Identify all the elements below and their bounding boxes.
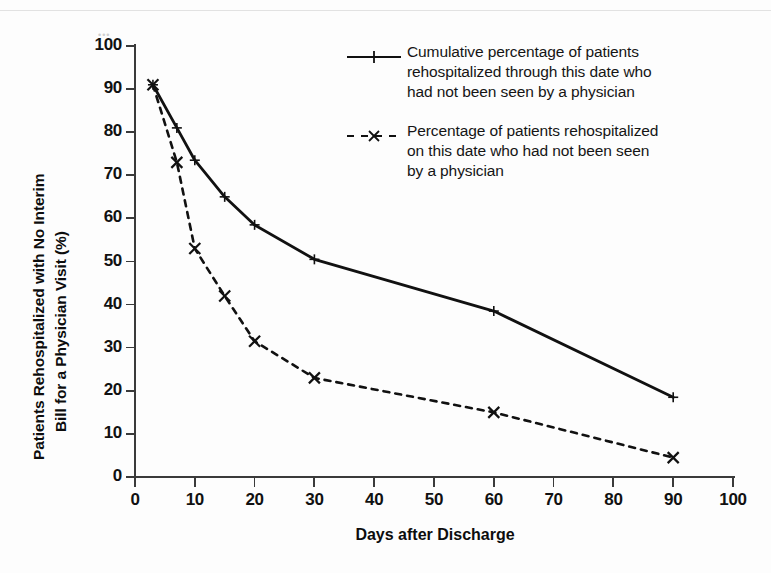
y-tick-mark: [126, 88, 135, 90]
y-tick-label: 30: [82, 337, 122, 357]
x-tick-mark: [254, 478, 256, 487]
x-tick-label: 40: [352, 490, 396, 510]
y-tick-mark: [126, 45, 135, 47]
legend-entry-cumulative: Cumulative percentage of patients rehosp…: [345, 42, 765, 101]
x-tick-label: 70: [532, 490, 576, 510]
x-tick-label: 60: [472, 490, 516, 510]
y-tick-label: 70: [82, 164, 122, 184]
x-tick-label: 80: [591, 490, 635, 510]
x-tick-label: 100: [711, 490, 755, 510]
x-tick-mark: [373, 478, 375, 487]
y-tick-label: 20: [82, 380, 122, 400]
legend-key-solid-plus-icon: [345, 42, 407, 65]
legend-label-cumulative-line-3: had not been seen by a physician: [407, 82, 652, 102]
y-tick-label: 100: [82, 35, 122, 55]
legend-label-cumulative: Cumulative percentage of patients rehosp…: [407, 42, 652, 101]
x-tick-label: 30: [292, 490, 336, 510]
y-tick-mark: [126, 433, 135, 435]
legend-label-on-date-line-1: Percentage of patients rehospitalized: [407, 121, 658, 141]
legend-label-on-date-line-2: on this date who had not been seen: [407, 141, 658, 161]
x-tick-label: 10: [173, 490, 217, 510]
y-tick-label: 60: [82, 207, 122, 227]
data-point-marker: [489, 306, 499, 316]
x-tick-label: 0: [113, 490, 157, 510]
x-axis-title: Days after Discharge: [135, 526, 735, 544]
x-tick-mark: [313, 478, 315, 487]
y-tick-label: 90: [82, 78, 122, 98]
y-tick-label: 40: [82, 294, 122, 314]
x-tick-mark: [134, 478, 136, 487]
x-tick-label: 90: [651, 490, 695, 510]
x-tick-mark: [194, 478, 196, 487]
legend-label-cumulative-line-1: Cumulative percentage of patients: [407, 42, 652, 62]
chart-figure: ••• Patients Rehospitalized with No Inte…: [0, 0, 771, 573]
x-tick-mark: [612, 478, 614, 487]
legend-label-on-date-line-3: by a physician: [407, 161, 658, 181]
y-tick-label: 10: [82, 423, 122, 443]
y-tick-mark: [126, 390, 135, 392]
y-tick-label: 50: [82, 251, 122, 271]
data-point-marker: [219, 290, 230, 301]
y-tick-mark: [126, 131, 135, 133]
legend-key-dashed-x-icon: [345, 121, 407, 144]
y-axis-tick-labels: 0102030405060708090100: [78, 0, 122, 520]
x-tick-mark: [732, 478, 734, 487]
x-tick-mark: [672, 478, 674, 487]
y-tick-mark: [126, 304, 135, 306]
x-tick-mark: [553, 478, 555, 487]
y-tick-label: 0: [82, 466, 122, 486]
x-tick-label: 20: [233, 490, 277, 510]
x-tick-mark: [433, 478, 435, 487]
legend-label-on-date: Percentage of patients rehospitalized on…: [407, 121, 658, 180]
legend-entry-on-date: Percentage of patients rehospitalized on…: [345, 121, 765, 180]
data-point-marker: [249, 336, 260, 347]
y-tick-mark: [126, 217, 135, 219]
y-tick-mark: [126, 347, 135, 349]
y-tick-label: 80: [82, 121, 122, 141]
data-point-marker: [189, 243, 200, 254]
y-tick-mark: [126, 261, 135, 263]
x-tick-label: 50: [412, 490, 456, 510]
y-tick-mark: [126, 174, 135, 176]
y-axis-title-line-2: Bill for a Physician Visit (%): [52, 231, 70, 432]
x-tick-mark: [493, 478, 495, 487]
legend-label-cumulative-line-2: rehospitalized through this date who: [407, 62, 652, 82]
y-axis-title-line-1: Patients Rehospitalized with No Interim: [30, 174, 48, 460]
data-point-marker: [668, 392, 678, 402]
chart-legend: Cumulative percentage of patients rehosp…: [345, 42, 765, 201]
